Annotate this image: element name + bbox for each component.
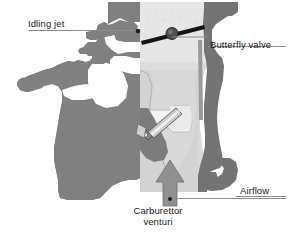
leader-dots [136,29,141,34]
carburettor-diagram: Idling jet Butterfly valve Airflow Carbu… [0,0,288,241]
label-carburettor-venturi: Carburettorventuri [110,205,206,227]
label-butterfly-valve: Butterfly valve [210,39,271,50]
label-carburettor-venturi-line2: venturi [110,216,206,227]
label-carburettor-venturi-line1: Carburettor [133,205,182,216]
label-idling-jet: Idling jet [28,18,64,29]
casing-upper-block [203,2,238,38]
label-airflow: Airflow [240,185,269,196]
idling-jet-leader-dot [136,29,141,34]
body-left-lobe [17,74,46,91]
airflow-leader-dot [168,197,172,201]
butterfly-valve-spindle [166,28,178,40]
